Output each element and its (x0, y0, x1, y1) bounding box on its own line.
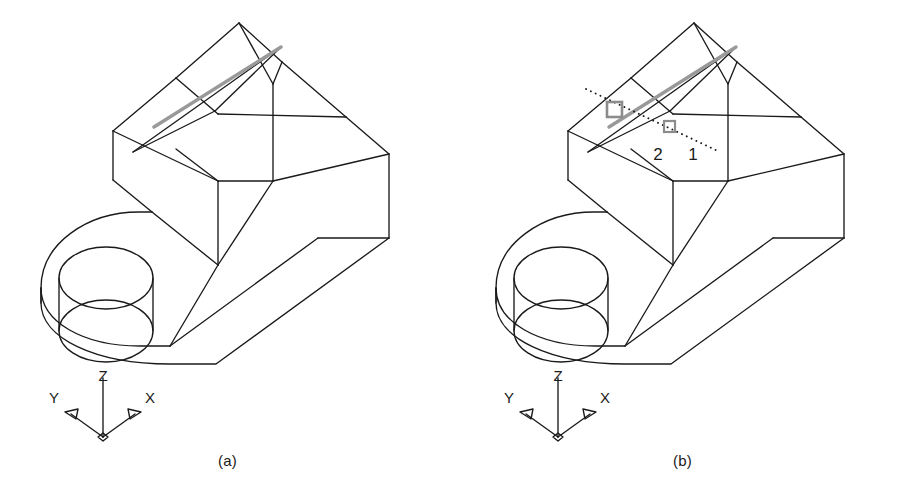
base-top-front-edge (170, 238, 318, 346)
figure-panel-a: Z X Y (a) (0, 0, 455, 494)
panel-caption-a: (a) (0, 452, 455, 469)
riser-bottom-edge (625, 265, 673, 346)
prism-apex-right (694, 23, 737, 62)
prism-inner-ridge-b (673, 114, 801, 117)
riser-front-diagonal (176, 149, 218, 181)
prism-right-ridge (282, 62, 346, 117)
prism-cross-edge-3 (728, 154, 844, 181)
snap-marker-1[interactable] (664, 121, 675, 132)
prism-inner-diag-2 (273, 62, 282, 84)
prism-apex-left (631, 23, 694, 78)
base-top-rounded-left (496, 212, 625, 346)
prism-left-face-upper (113, 78, 176, 131)
ucs-label-y: Y (504, 389, 514, 406)
prism-inner-ridge-b (218, 114, 346, 117)
isometric-wireframe-a: Z X Y (0, 0, 455, 460)
ucs-label-y: Y (49, 389, 59, 406)
snap-marker-label-1: 1 (688, 145, 697, 164)
riser-front-diagonal (631, 149, 673, 181)
ucs-icon (520, 378, 596, 441)
riser-front-lower (607, 212, 673, 265)
figure-panel-b: 2 1 Z X Y (b) (455, 0, 910, 494)
prism-right-fall (801, 117, 844, 154)
base-top-face-outline (568, 180, 607, 212)
prism-inner-diag-2 (728, 62, 737, 84)
riser-back-slope (673, 181, 728, 265)
figure-page: Z X Y (a) (0, 0, 910, 494)
notch-edge-lower (133, 111, 215, 152)
ucs-icon (65, 378, 141, 441)
ucs-label-z: Z (553, 367, 562, 384)
prism-apex-right (239, 23, 282, 62)
ucs-label-x: X (600, 389, 610, 406)
base-top-rounded-left (41, 212, 170, 346)
base-top-face-outline (113, 180, 152, 212)
prism-right-fall (346, 117, 389, 154)
ucs-label-x: X (145, 389, 155, 406)
snap-marker-label-2: 2 (653, 145, 662, 164)
ucs-label-z: Z (98, 367, 107, 384)
prism-cross-edge-3 (273, 154, 389, 181)
prism-apex-left (176, 23, 239, 78)
riser-bottom-edge (170, 265, 218, 346)
notch-edge-back (670, 47, 736, 111)
notch-edge-back (215, 47, 281, 111)
panel-caption-b: (b) (455, 452, 910, 469)
base-top-front-edge (625, 238, 773, 346)
prism-right-ridge (737, 62, 801, 117)
riser-front-lower (152, 212, 218, 265)
prism-cross-edge (113, 131, 218, 181)
riser-back-slope (218, 181, 273, 265)
isometric-wireframe-b: 2 1 Z X Y (455, 0, 910, 460)
